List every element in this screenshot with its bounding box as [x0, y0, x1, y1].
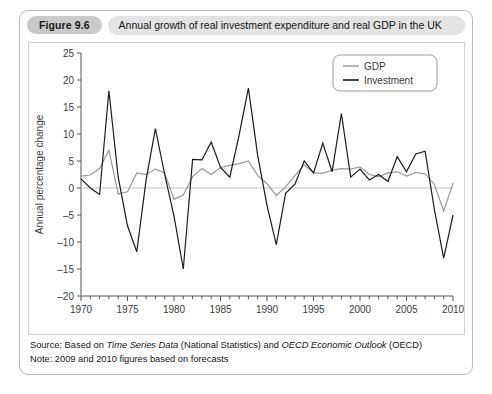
svg-text:–10: –10: [57, 237, 74, 248]
legend-label-investment: Investment: [364, 75, 413, 86]
figure-card: Figure 9.6 Annual growth of real investm…: [19, 10, 473, 375]
svg-text:20: 20: [63, 75, 75, 86]
source-italic-oecd: OECD Economic Outlook: [282, 340, 387, 350]
x-axis: 197019751980198519901995200020052010: [70, 296, 464, 315]
source-suffix: (OECD): [386, 340, 422, 350]
figure-header: Figure 9.6 Annual growth of real investm…: [20, 11, 472, 39]
figure-title: Annual growth of real investment expendi…: [108, 16, 465, 35]
svg-text:10: 10: [63, 129, 75, 140]
svg-text:–20: –20: [57, 291, 74, 302]
svg-text:0: 0: [68, 183, 74, 194]
svg-text:1975: 1975: [116, 304, 139, 315]
series-line-investment: [81, 88, 453, 269]
svg-text:1970: 1970: [70, 304, 93, 315]
svg-text:5: 5: [68, 156, 74, 167]
source-prefix: Source: Based on: [30, 340, 107, 350]
y-axis: 2520151050–5–10–15–20: [57, 48, 81, 302]
svg-text:1980: 1980: [163, 304, 186, 315]
svg-text:1985: 1985: [209, 304, 232, 315]
svg-text:2010: 2010: [442, 304, 464, 315]
svg-text:1990: 1990: [256, 304, 279, 315]
source-mid: (National Statistics) and: [178, 340, 281, 350]
source-line: Source: Based on Time Series Data (Natio…: [30, 339, 460, 353]
y-axis-title: Annual percentage change: [34, 114, 45, 234]
legend-label-gdp: GDP: [364, 61, 386, 72]
svg-text:–15: –15: [57, 264, 74, 275]
figure-number-badge: Figure 9.6: [27, 16, 102, 34]
source-italic-timeseries: Time Series Data: [107, 340, 179, 350]
note-line: Note: 2009 and 2010 figures based on for…: [30, 353, 460, 367]
chart-plot-panel: 2520151050–5–10–15–20 197019751980198519…: [28, 42, 465, 335]
svg-text:–5: –5: [63, 210, 75, 221]
svg-text:15: 15: [63, 102, 75, 113]
line-chart: 2520151050–5–10–15–20 197019751980198519…: [29, 43, 464, 334]
svg-text:1995: 1995: [302, 304, 325, 315]
svg-text:2000: 2000: [349, 304, 372, 315]
svg-text:25: 25: [63, 48, 75, 59]
figure-footnotes: Source: Based on Time Series Data (Natio…: [30, 339, 460, 366]
svg-text:2005: 2005: [395, 304, 418, 315]
chart-legend: GDP Investment: [333, 55, 437, 91]
